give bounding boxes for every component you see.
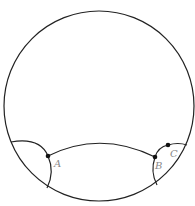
label-b: B	[154, 160, 162, 171]
point-a	[46, 154, 51, 159]
boundary-circle	[4, 11, 194, 201]
label-c: C	[170, 148, 178, 159]
label-a: A	[53, 158, 61, 169]
arc-c-to-edge	[168, 144, 187, 146]
point-b	[153, 155, 158, 160]
arc-a-to-b	[48, 143, 155, 157]
arc-a-down	[47, 156, 51, 188]
arc-b-to-c	[155, 145, 168, 157]
point-c	[166, 143, 171, 148]
diagram-canvas: A B C	[0, 0, 195, 206]
